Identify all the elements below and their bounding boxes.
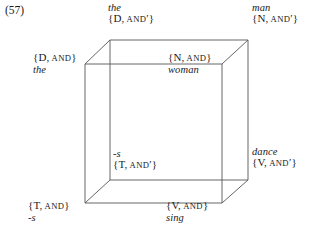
vertex-label-front-top-right: {N, AND} woman xyxy=(168,52,212,75)
cube-edge-connect-bottom-right xyxy=(222,180,248,203)
comma: , xyxy=(46,51,49,63)
brace-close: } xyxy=(152,158,157,170)
brace-close: } xyxy=(71,51,76,63)
vertex-feature-front-bottom-right: {V, AND} xyxy=(166,200,208,212)
operator: AND xyxy=(271,14,291,24)
vertex-label-back-top-right: man {N, AND′} xyxy=(252,2,298,25)
vertex-label-front-top-left: {D, AND} the xyxy=(33,52,77,75)
vertex-feature-back-bottom-right: {V, AND′} xyxy=(252,157,297,169)
cube-edge-connect-top-right xyxy=(222,40,248,64)
cube-edge-connect-top-left xyxy=(85,40,110,64)
brace-close: } xyxy=(206,51,211,63)
comma: , xyxy=(181,51,184,63)
operator: AND xyxy=(183,201,203,211)
vertex-feature-back-bottom-left: {T, AND′} xyxy=(113,159,157,171)
vertex-label-front-bottom-left: {T, AND} -s xyxy=(28,200,70,223)
vertex-feature-back-top-right: {N, AND′} xyxy=(252,13,298,25)
operator: AND xyxy=(269,158,289,168)
vertex-label-back-bottom-left: -s {T, AND′} xyxy=(113,148,157,171)
comma: , xyxy=(121,12,124,24)
vertex-label-back-top-left: the {D, AND′} xyxy=(108,2,154,25)
comma: , xyxy=(264,156,267,168)
vertex-feature-front-top-left: {D, AND} xyxy=(33,52,77,64)
brace-close: } xyxy=(291,156,296,168)
vertex-feature-front-top-right: {N, AND} xyxy=(168,52,212,64)
vertex-word-front-bottom-right: sing xyxy=(166,212,208,223)
comma: , xyxy=(265,12,268,24)
operator: AND xyxy=(45,201,65,211)
vertex-label-back-bottom-right: dance {V, AND′} xyxy=(252,146,297,169)
cube-edge-connect-bottom-left xyxy=(85,180,110,203)
brace-close: } xyxy=(293,12,298,24)
brace-close: } xyxy=(64,199,69,211)
operator: AND xyxy=(130,160,150,170)
brace-close: } xyxy=(203,199,208,211)
comma: , xyxy=(124,158,127,170)
brace-close: } xyxy=(149,12,154,24)
vertex-label-front-bottom-right: {V, AND} sing xyxy=(166,200,208,223)
vertex-feature-back-top-left: {D, AND′} xyxy=(108,13,154,25)
operator: AND xyxy=(52,53,72,63)
comma: , xyxy=(178,199,181,211)
operator: AND xyxy=(187,53,207,63)
vertex-word-front-bottom-left: -s xyxy=(28,212,70,223)
vertex-word-front-top-left: the xyxy=(33,64,77,75)
comma: , xyxy=(39,199,42,211)
vertex-feature-front-bottom-left: {T, AND} xyxy=(28,200,70,212)
operator: AND xyxy=(127,14,147,24)
figure-container: (57) the {D, AND′} man {N, AND′} xyxy=(0,0,310,245)
vertex-word-front-top-right: woman xyxy=(168,64,212,75)
